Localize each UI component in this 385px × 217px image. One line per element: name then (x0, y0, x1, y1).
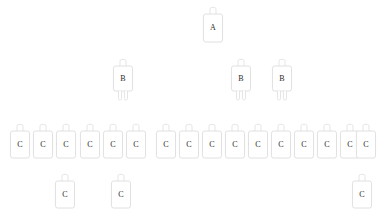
node-label: C (356, 141, 376, 149)
node-c[interactable]: C (111, 181, 131, 208)
node-label: C (126, 141, 146, 149)
node-bottom-leg-icon (284, 91, 287, 100)
node-label: C (317, 141, 337, 149)
node-bottom-leg-icon (119, 91, 122, 100)
node-c[interactable]: C (225, 131, 245, 158)
node-a[interactable]: A (203, 14, 223, 42)
node-label: C (271, 141, 291, 149)
node-c[interactable]: C (356, 131, 376, 158)
node-b[interactable]: B (113, 66, 133, 91)
node-bottom-leg-icon (278, 91, 281, 100)
node-bottom-leg-icon (237, 91, 240, 100)
node-label: C (33, 141, 53, 149)
node-label: A (203, 24, 223, 32)
node-c[interactable]: C (271, 131, 291, 158)
node-label: C (248, 141, 268, 149)
node-label: B (113, 75, 133, 83)
node-b[interactable]: B (231, 66, 251, 91)
node-b[interactable]: B (272, 66, 292, 91)
node-c[interactable]: C (10, 131, 30, 158)
node-label: C (80, 141, 100, 149)
node-label: C (225, 141, 245, 149)
node-label: C (10, 141, 30, 149)
node-c[interactable]: C (156, 131, 176, 158)
node-label: C (156, 141, 176, 149)
node-label: C (55, 191, 75, 199)
node-c[interactable]: C (202, 131, 222, 158)
diagram-canvas: ABBBCCCCCCCCCCCCCCCCCCC (0, 0, 385, 217)
node-c[interactable]: C (317, 131, 337, 158)
node-label: C (111, 191, 131, 199)
node-label: C (294, 141, 314, 149)
node-label: B (272, 75, 292, 83)
node-label: C (103, 141, 123, 149)
node-c[interactable]: C (126, 131, 146, 158)
node-label: C (352, 191, 372, 199)
node-label: B (231, 75, 251, 83)
node-c[interactable]: C (248, 131, 268, 158)
node-label: C (202, 141, 222, 149)
node-c[interactable]: C (56, 131, 76, 158)
node-c[interactable]: C (294, 131, 314, 158)
node-label: C (56, 141, 76, 149)
node-c[interactable]: C (103, 131, 123, 158)
node-bottom-leg-icon (243, 91, 246, 100)
node-c[interactable]: C (55, 181, 75, 208)
node-c[interactable]: C (80, 131, 100, 158)
node-label: C (179, 141, 199, 149)
node-bottom-leg-icon (125, 91, 128, 100)
node-c[interactable]: C (352, 181, 372, 208)
node-c[interactable]: C (33, 131, 53, 158)
node-c[interactable]: C (179, 131, 199, 158)
